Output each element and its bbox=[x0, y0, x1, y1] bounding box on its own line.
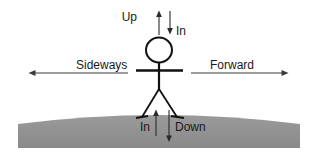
diagram-canvas: Up In Sideways Forward In Down bbox=[0, 0, 318, 163]
up-arrow bbox=[156, 11, 162, 36]
up-arrow-head-icon bbox=[156, 11, 162, 18]
stick-figure bbox=[136, 38, 184, 119]
label-sideways: Sideways bbox=[76, 58, 127, 72]
forward-arrow-head-icon bbox=[282, 70, 289, 76]
label-in-bottom: In bbox=[140, 120, 150, 134]
figure-right-leg bbox=[159, 89, 177, 117]
sideways-arrow-head-icon bbox=[29, 70, 36, 76]
in-top-arrow-head-icon bbox=[167, 28, 173, 35]
direction-axes-diagram: Up In Sideways Forward In Down bbox=[0, 0, 318, 163]
label-down: Down bbox=[175, 120, 206, 134]
in-bottom-arrow-head-icon bbox=[153, 110, 159, 117]
label-forward: Forward bbox=[210, 58, 254, 72]
in-top-arrow bbox=[167, 11, 173, 35]
label-in-top: In bbox=[176, 24, 186, 38]
label-up: Up bbox=[122, 10, 138, 24]
figure-head bbox=[146, 38, 172, 63]
curved-ground bbox=[18, 115, 300, 148]
ground-group bbox=[18, 115, 300, 148]
